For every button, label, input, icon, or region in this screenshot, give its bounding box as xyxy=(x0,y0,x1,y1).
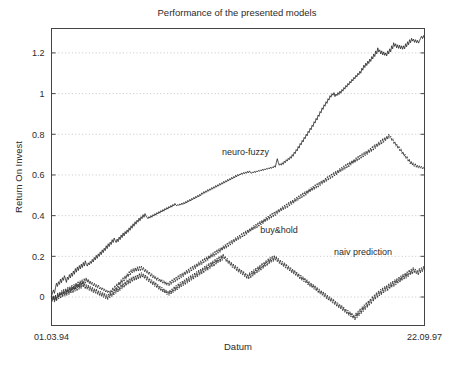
y-tick-label: 0.6 xyxy=(32,170,45,180)
x-tick-label: 01.03.94 xyxy=(34,332,69,342)
y-tick-label: 1.2 xyxy=(32,48,45,58)
series-label-buy-hold: buy&hold xyxy=(260,225,298,235)
y-tick-label: 0.8 xyxy=(32,130,45,140)
performance-line-chart: Performance of the presented models 00.2… xyxy=(0,0,462,366)
y-axis-label: Return On Invest xyxy=(13,141,24,213)
y-tick-label: 0.4 xyxy=(32,211,45,221)
y-tick-label: 0.2 xyxy=(32,252,45,262)
x-tick-label: 22.09.97 xyxy=(407,332,442,342)
series-label-neuro-fuzzy: neuro-fuzzy xyxy=(222,147,270,157)
chart-background xyxy=(0,0,462,366)
x-axis-label: Datum xyxy=(224,341,252,352)
y-tick-label: 1 xyxy=(39,89,44,99)
series-label-naiv-prediction: naiv prediction xyxy=(334,247,392,257)
chart-figure: Performance of the presented models 00.2… xyxy=(0,0,462,366)
chart-title: Performance of the presented models xyxy=(158,7,317,18)
y-tick-label: 0 xyxy=(39,292,44,302)
